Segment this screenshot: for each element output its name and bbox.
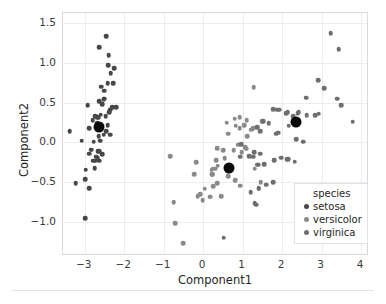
legend-item-label: virginica [313, 226, 356, 239]
y-tick-label: −1.0 [31, 215, 57, 227]
data-point-virginica [247, 154, 252, 159]
data-point-setosa [67, 129, 72, 134]
clipped-title-strip [0, 0, 386, 4]
data-point-virginica [272, 158, 277, 163]
legend-marker-icon [299, 204, 313, 209]
data-point-versicolor [223, 156, 228, 161]
data-point-versicolor [242, 123, 247, 128]
data-point-versicolor [243, 145, 248, 150]
data-point-setosa [83, 177, 88, 182]
data-point-setosa [106, 63, 111, 68]
legend-title: species [299, 187, 363, 200]
x-tick-label: 1 [238, 258, 245, 270]
x-tick-label: 2 [278, 258, 285, 270]
data-point-versicolor [238, 183, 243, 188]
data-point-virginica [248, 190, 253, 195]
gridline-vertical [164, 13, 165, 254]
data-point-setosa [107, 110, 112, 115]
data-point-virginica [262, 162, 267, 167]
data-point-virginica [266, 121, 271, 126]
data-point-versicolor [226, 131, 231, 136]
data-point-virginica [271, 180, 276, 185]
data-point-virginica [276, 131, 281, 136]
legend-item-label: setosa [313, 200, 346, 213]
data-point-versicolor [231, 148, 236, 153]
data-point-virginica [271, 107, 276, 112]
legend-marker-icon [299, 230, 313, 235]
virginica-centroid [290, 116, 301, 127]
data-point-setosa [83, 216, 88, 221]
data-point-versicolor [249, 127, 254, 132]
x-tick-label: −3 [76, 258, 91, 270]
data-point-setosa [100, 102, 105, 107]
data-point-versicolor [233, 178, 238, 183]
data-point-setosa [92, 139, 97, 144]
data-point-virginica [351, 119, 356, 124]
data-point-virginica [313, 113, 318, 118]
legend-item-versicolor[interactable]: versicolor [299, 213, 363, 226]
data-point-virginica [252, 150, 257, 155]
x-tick-label: −2 [115, 258, 130, 270]
data-point-setosa [93, 159, 98, 164]
y-tick-label: 1.5 [39, 16, 56, 28]
data-point-versicolor [214, 158, 219, 163]
data-point-virginica [221, 235, 226, 240]
x-tick-label: 0 [199, 258, 206, 270]
data-point-virginica [239, 142, 244, 147]
data-point-setosa [98, 139, 103, 144]
data-point-setosa [87, 186, 92, 191]
y-tick-label: −0.5 [31, 175, 57, 187]
data-point-setosa [83, 167, 88, 172]
legend-item-label: versicolor [313, 213, 362, 226]
data-point-setosa [107, 53, 112, 58]
x-tick-label: 4 [357, 258, 364, 270]
data-point-versicolor [251, 85, 256, 90]
legend-item-virginica[interactable]: virginica [299, 226, 363, 239]
data-point-versicolor [195, 194, 200, 199]
gridline-vertical [282, 13, 283, 254]
data-point-setosa [97, 149, 102, 154]
x-tick-label: −1 [155, 258, 170, 270]
data-point-versicolor [208, 195, 213, 200]
data-point-virginica [279, 155, 284, 160]
data-point-setosa [97, 45, 102, 50]
data-point-virginica [264, 183, 269, 188]
legend[interactable]: species setosaversicolorvirginica [294, 183, 368, 244]
data-point-virginica [255, 125, 260, 130]
data-point-setosa [87, 151, 92, 156]
legend-item-setosa[interactable]: setosa [299, 200, 363, 213]
data-point-versicolor [192, 172, 197, 177]
data-point-versicolor [233, 123, 238, 128]
data-point-virginica [292, 159, 297, 164]
data-point-virginica [316, 78, 321, 83]
data-point-setosa [90, 118, 95, 123]
data-point-versicolor [219, 194, 224, 199]
data-point-versicolor [252, 167, 257, 172]
y-tick-label: 1.0 [39, 56, 56, 68]
data-point-setosa [108, 71, 113, 76]
data-point-setosa [79, 139, 84, 144]
data-point-virginica [304, 95, 309, 100]
data-point-versicolor [181, 241, 186, 246]
data-point-versicolor [226, 174, 231, 179]
data-point-versicolor [173, 221, 178, 226]
data-point-virginica [284, 111, 289, 116]
gridline-horizontal [63, 103, 367, 104]
data-point-virginica [336, 47, 341, 52]
data-point-virginica [301, 139, 306, 144]
data-point-versicolor [215, 181, 220, 186]
data-point-versicolor [238, 115, 243, 120]
data-point-versicolor [259, 180, 264, 185]
data-point-versicolor [221, 148, 226, 153]
gridline-vertical [203, 13, 204, 254]
data-point-virginica [294, 137, 299, 142]
data-point-setosa [104, 129, 109, 134]
data-point-setosa [111, 81, 116, 86]
data-point-setosa [105, 123, 110, 128]
data-point-virginica [252, 201, 257, 206]
data-point-setosa [96, 134, 101, 139]
data-point-versicolor [200, 198, 205, 203]
data-point-virginica [339, 103, 344, 108]
data-point-versicolor [232, 116, 237, 121]
y-axis-label: Component2 [17, 70, 31, 210]
